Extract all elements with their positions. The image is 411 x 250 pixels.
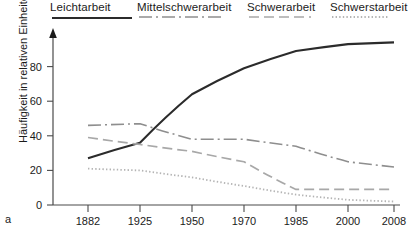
y-tick-80: 80 — [30, 61, 42, 73]
chart-figure: Leichtarbeit Mittelschwerarbeit Schwerar… — [0, 0, 411, 250]
y-tick-0: 0 — [36, 199, 42, 211]
x-tick-1925: 1925 — [128, 215, 152, 227]
x-axis-ticks: 1882 1925 1950 1970 1985 2000 2008 — [76, 205, 406, 227]
x-tick-2008: 2008 — [382, 215, 406, 227]
y-tick-20: 20 — [30, 164, 42, 176]
y-axis-ticks: 0 20 40 60 80 — [30, 61, 53, 211]
series-line-leichtarbeit — [88, 42, 394, 158]
y-tick-60: 60 — [30, 95, 42, 107]
x-tick-1970: 1970 — [232, 215, 256, 227]
y-tick-40: 40 — [30, 130, 42, 142]
axes — [49, 28, 400, 205]
x-tick-2000: 2000 — [336, 215, 360, 227]
x-tick-1882: 1882 — [76, 215, 100, 227]
series-line-schwerstarbeit — [88, 169, 394, 202]
x-tick-1950: 1950 — [180, 215, 204, 227]
series-group — [88, 42, 394, 201]
plot-area: 0 20 40 60 80 1882 1925 1950 1970 1985 2… — [0, 0, 411, 250]
x-tick-1985: 1985 — [284, 215, 308, 227]
